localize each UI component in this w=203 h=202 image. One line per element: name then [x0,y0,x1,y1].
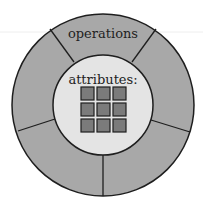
attributes-label: attributes: [68,72,137,87]
attribute-cell [97,119,110,132]
attribute-cell [81,119,94,132]
attribute-cell [113,119,126,132]
attribute-cell [97,103,110,116]
encapsulation-diagram: operations attributes: [0,0,203,202]
attribute-cell [81,87,94,100]
attribute-cell [97,87,110,100]
attribute-grid [81,87,126,132]
attribute-cell [113,103,126,116]
attribute-cell [81,103,94,116]
operations-label: operations [68,26,138,41]
attribute-cell [113,87,126,100]
